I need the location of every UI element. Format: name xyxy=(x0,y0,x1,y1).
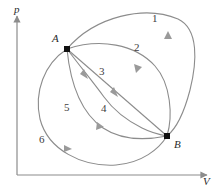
process-curve-2 xyxy=(67,44,170,136)
process-label-1: 1 xyxy=(152,13,158,24)
state-point-a-label: A xyxy=(52,33,59,44)
axes-group xyxy=(17,16,207,175)
pv-diagram-figure: p V A B 1 2 3 4 5 6 xyxy=(0,0,221,193)
diagram-canvas xyxy=(0,0,221,193)
process-label-3: 3 xyxy=(99,66,105,77)
y-axis-label: p xyxy=(14,4,20,15)
direction-arrow-curve-2 xyxy=(134,64,142,73)
x-axis-label: V xyxy=(203,176,210,187)
state-point-b-marker xyxy=(164,133,170,139)
state-point-b-label: B xyxy=(174,139,181,150)
process-curves-group xyxy=(38,13,195,165)
process-label-5: 5 xyxy=(64,102,70,113)
process-label-2: 2 xyxy=(134,42,140,53)
process-label-4: 4 xyxy=(101,103,107,114)
state-point-a-marker xyxy=(64,46,70,52)
process-curve-3 xyxy=(67,49,167,136)
process-label-6: 6 xyxy=(39,134,45,145)
direction-arrow-curve-6 xyxy=(64,145,72,152)
direction-arrow-curve-5 xyxy=(96,122,104,130)
direction-arrow-curve-1 xyxy=(164,31,172,39)
